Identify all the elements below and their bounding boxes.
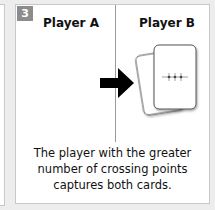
card-stack-icon: [134, 41, 206, 119]
rule-caption: The player with the greater number of cr…: [16, 145, 209, 193]
arrow-right-icon: [100, 68, 136, 98]
player-b-heading: Player B: [122, 16, 212, 30]
step-panel: 3 Player A Player B The player with the …: [15, 4, 210, 204]
caption-line: The player with the greater: [16, 145, 209, 161]
player-a-heading: Player A: [26, 16, 116, 30]
caption-line: number of crossing points: [16, 161, 209, 177]
previous-panel-edge: [0, 4, 5, 206]
caption-line: captures both cards.: [16, 177, 209, 193]
